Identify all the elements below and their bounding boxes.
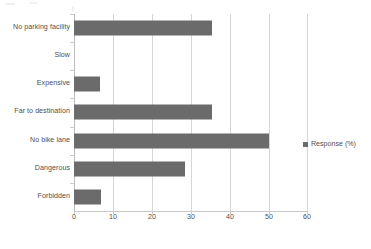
bar-track: [74, 133, 269, 148]
scan-artifact: [72, 6, 74, 11]
bar-row: Expensive: [0, 70, 371, 98]
scan-artifact: [30, 2, 37, 4]
bar-expensive: [74, 77, 100, 92]
bar-row: No parking facility: [0, 14, 371, 42]
legend-label: Response (%): [311, 141, 356, 148]
bar-track: [74, 21, 212, 36]
bar-track: [74, 77, 100, 92]
chart-legend: Response (%): [303, 141, 356, 148]
y-axis-tick: [70, 42, 74, 43]
bar-no-parking-facility: [74, 21, 212, 36]
bar-row: Dangerous: [0, 155, 371, 183]
x-axis-tick-labels: 0 10 20 30 40 50 60: [0, 214, 371, 230]
category-label: Dangerous: [35, 165, 70, 172]
bar-no-bike-lane: [74, 133, 269, 148]
x-axis-tick-label: 60: [303, 214, 311, 221]
y-axis-tick: [70, 98, 74, 99]
x-axis-tick-label: 20: [148, 214, 156, 221]
y-axis-tick: [70, 14, 74, 15]
bar-far-to-destination: [74, 105, 212, 120]
y-axis-tick: [70, 70, 74, 71]
x-axis-tick-label: 40: [226, 214, 234, 221]
bar-row: Far to destination: [0, 98, 371, 126]
y-axis-tick: [70, 155, 74, 156]
x-axis-tick-label: 10: [109, 214, 117, 221]
category-label: No bike lane: [30, 137, 70, 144]
bar-track: [74, 161, 185, 176]
bar-track: [74, 189, 101, 204]
category-label: Far to destination: [14, 109, 70, 116]
bar-row: Slow: [0, 42, 371, 70]
scan-artifact: [6, 3, 15, 5]
category-label: Forbidden: [38, 193, 70, 200]
category-label: No parking facility: [13, 25, 70, 32]
bar-dangerous: [74, 161, 185, 176]
category-label: Slow: [54, 53, 70, 60]
x-axis-tick-label: 30: [187, 214, 195, 221]
bar-chart: No parking facility Slow Expensive Far t…: [0, 0, 371, 249]
category-label: Expensive: [37, 81, 70, 88]
bar-row: Forbidden: [0, 183, 371, 211]
legend-swatch-icon: [303, 142, 308, 147]
x-axis-tick-label: 50: [265, 214, 273, 221]
y-axis-tick: [70, 127, 74, 128]
y-axis-tick: [70, 183, 74, 184]
x-axis-tick-label: 0: [72, 214, 76, 221]
bar-forbidden: [74, 189, 101, 204]
bar-rows: No parking facility Slow Expensive Far t…: [0, 14, 371, 211]
bar-track: [74, 105, 212, 120]
